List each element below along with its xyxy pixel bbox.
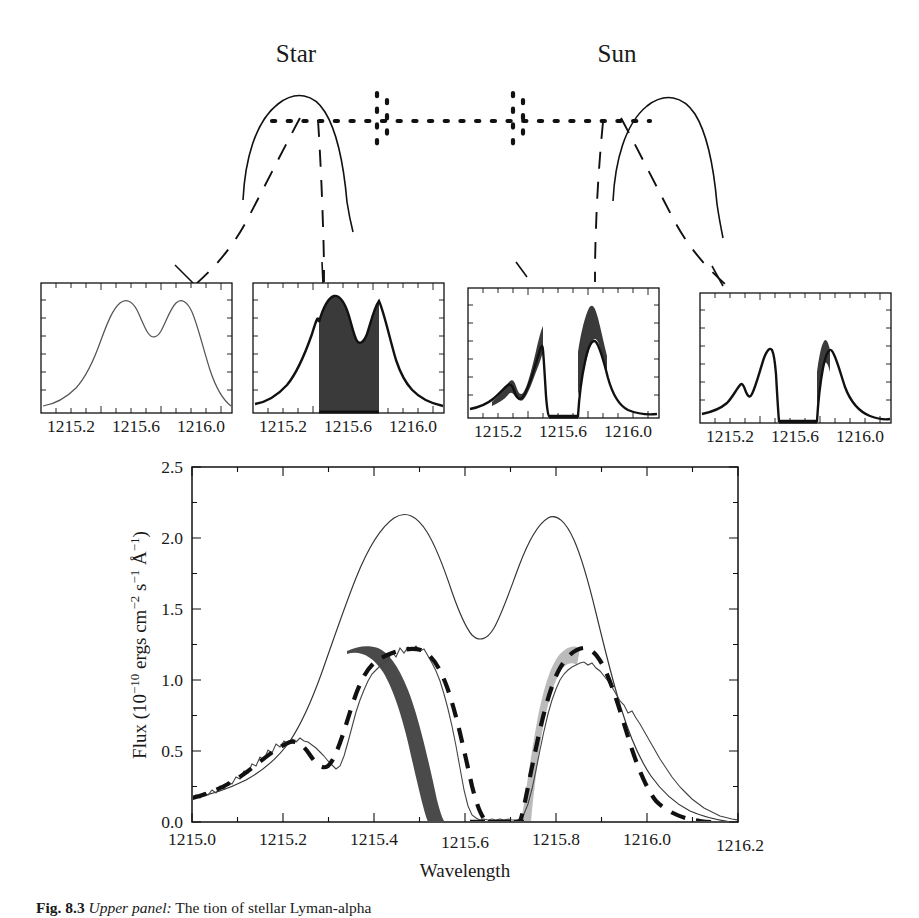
panel-2-xtick-0: 1215.2 — [259, 416, 307, 436]
figure-caption: Fig. 8.3 Upper panel: The tion of stella… — [36, 898, 896, 917]
yaxis-mid3: Å — [129, 551, 150, 570]
main-ytick-2: 1.0 — [161, 670, 183, 690]
leader-line-panel-1 — [175, 265, 193, 283]
figure-lyman-alpha: Star Sun — [0, 0, 919, 918]
yaxis-exp1: −10 — [127, 674, 142, 694]
sun-cone-right-dashed — [621, 118, 725, 284]
panel-4-xtick-0: 1215.2 — [706, 426, 754, 446]
yaxis-mid2: s — [129, 584, 150, 596]
caption-label: Fig. 8.3 — [36, 899, 85, 916]
panel-intrinsic-profile: 1215.2 1215.6 1216.0 — [41, 283, 232, 436]
main-xtick-4: 1215.8 — [532, 829, 580, 849]
panel-4-xtick-1: 1215.6 — [771, 426, 819, 446]
main-spectrum-plot: 0.0 0.5 1.0 1.5 2.0 2.5 1215.0 1215.2 12… — [127, 457, 764, 881]
panel-ism-absorbed-profile: 1215.2 1215.6 1216.0 — [253, 283, 444, 436]
panel-1-xtick-2: 1216.0 — [177, 416, 225, 436]
main-xtick-2: 1215.4 — [350, 829, 398, 849]
sun-cone-left-dashed — [595, 122, 603, 282]
svg-text:Flux (10−10 ergs cm−2 s−1 Å−1): Flux (10−10 ergs cm−2 s−1 Å−1) — [127, 531, 151, 759]
panel-heliospheric-absorption-profile: 1215.2 1215.6 1216.0 — [468, 288, 659, 441]
figure-canvas: Star Sun — [0, 0, 919, 918]
main-xtick-5: 1216.0 — [623, 829, 671, 849]
main-xtick-6: 1216.2 — [716, 835, 764, 855]
leader-line-panel-2 — [322, 262, 323, 284]
star-cone-left-dashed — [196, 118, 300, 284]
main-ytick-4: 2.0 — [161, 528, 183, 548]
sun-astrosphere-outline — [613, 98, 723, 238]
main-xaxis-title: Wavelength — [420, 860, 511, 881]
main-plot-frame — [192, 467, 738, 822]
main-xtick-1: 1215.2 — [259, 829, 307, 849]
main-ytick-5: 2.5 — [161, 457, 183, 477]
yaxis-exp3: −1 — [127, 570, 142, 584]
yaxis-prefix: Flux (10 — [129, 694, 151, 759]
panel-2-xtick-2: 1216.0 — [389, 416, 437, 436]
panel-3-xtick-0: 1215.2 — [474, 421, 522, 441]
star-cone-right-dashed — [318, 120, 324, 282]
main-ytick-3: 1.5 — [161, 599, 183, 619]
yaxis-mid: ergs cm — [129, 609, 150, 673]
leader-line-panel-4 — [712, 266, 723, 286]
caption-italic-lead: Upper panel: — [89, 899, 172, 916]
schematic-sun-label: Sun — [598, 40, 637, 67]
main-xtick-0: 1215.0 — [168, 829, 216, 849]
main-xtick-3: 1215.6 — [441, 832, 489, 852]
panel-1-xtick-0: 1215.2 — [47, 416, 95, 436]
panel-4-xtick-2: 1216.0 — [836, 426, 884, 446]
panel-4-frame — [700, 293, 891, 423]
panel-1-xtick-1: 1215.6 — [112, 416, 160, 436]
leader-line-panel-3 — [516, 262, 527, 277]
panel-2-xtick-1: 1215.6 — [324, 416, 372, 436]
caption-text: The tion of stellar Lyman-alpha — [175, 899, 371, 916]
panel-astrospheric-absorption-profile: 1215.2 1215.6 1216.0 — [700, 293, 891, 446]
star-astrosphere-outline — [243, 96, 353, 232]
yaxis-exp4: −1 — [127, 537, 142, 551]
yaxis-exp2: −2 — [127, 596, 142, 610]
yaxis-suffix: ) — [129, 531, 151, 537]
main-ytick-1: 0.5 — [161, 741, 183, 761]
schematic-star-label: Star — [276, 40, 317, 67]
main-yaxis-title: Flux (10−10 ergs cm−2 s−1 Å−1) — [127, 531, 151, 759]
panel-3-xtick-1: 1215.6 — [539, 421, 587, 441]
schematic-diagram: Star Sun — [175, 40, 725, 286]
panel-3-xtick-2: 1216.0 — [604, 421, 652, 441]
